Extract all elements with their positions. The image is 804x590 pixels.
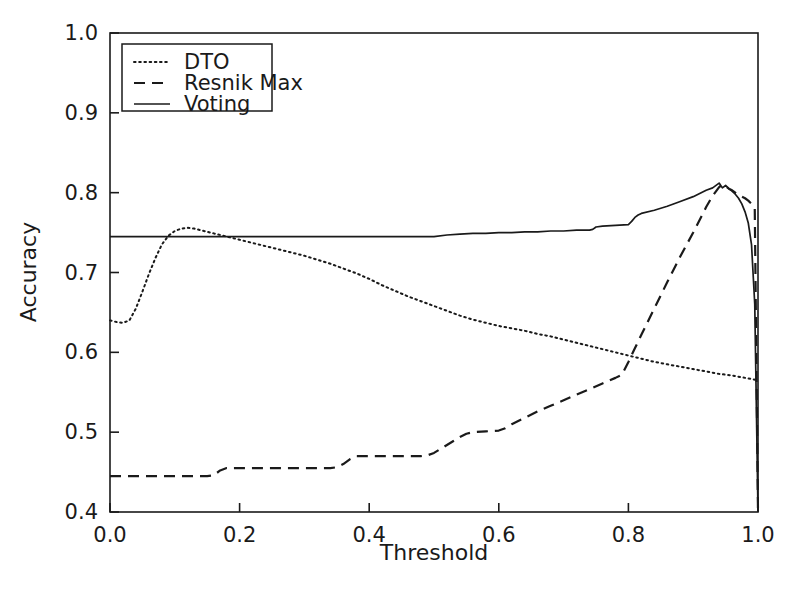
y-tick-label: 0.7 xyxy=(65,261,98,285)
chart-legend: DTOResnik MaxVoting xyxy=(122,44,303,116)
y-tick-label: 0.6 xyxy=(65,340,98,364)
y-tick-label: 0.4 xyxy=(65,500,98,524)
x-axis-ticks xyxy=(110,503,758,512)
y-axis-tick-labels: 0.40.50.60.70.80.91.0 xyxy=(65,21,98,524)
y-axis-title: Accuracy xyxy=(16,222,41,322)
legend-label-voting: Voting xyxy=(184,92,250,116)
y-tick-label: 1.0 xyxy=(65,21,98,45)
x-tick-label: 1.0 xyxy=(741,523,774,547)
y-tick-label: 0.5 xyxy=(65,420,98,444)
accuracy-vs-threshold-chart: 0.40.50.60.70.80.91.0 0.00.20.40.60.81.0… xyxy=(0,0,804,590)
series-line-voting xyxy=(110,183,758,512)
chart-figure: 0.40.50.60.70.80.91.0 0.00.20.40.60.81.0… xyxy=(0,0,804,590)
y-axis-ticks xyxy=(110,33,119,512)
series-group xyxy=(110,183,758,512)
y-tick-label: 0.9 xyxy=(65,101,98,125)
series-line-resnik-max xyxy=(110,185,758,512)
x-tick-label: 0.2 xyxy=(223,523,256,547)
x-tick-label: 0.8 xyxy=(612,523,645,547)
y-tick-label: 0.8 xyxy=(65,181,98,205)
x-axis-title: Threshold xyxy=(379,540,488,565)
series-line-dto xyxy=(110,228,758,380)
x-tick-label: 0.0 xyxy=(93,523,126,547)
